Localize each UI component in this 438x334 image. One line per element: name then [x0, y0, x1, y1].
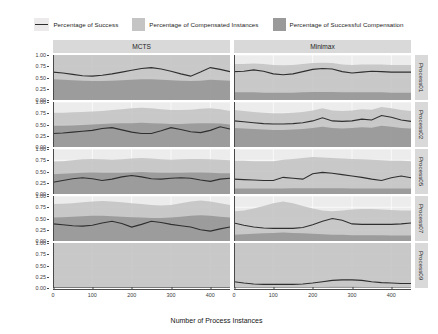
panel-process01-mcts: [53, 55, 230, 100]
y-tick-label: 0.75: [36, 110, 47, 116]
y-axis: 1.000.750.500.250.00: [25, 196, 49, 241]
y-tick-label: 0.25: [36, 274, 47, 280]
column-strip-minimax: Minimax: [234, 40, 411, 53]
y-tick-label: 0.25: [36, 86, 47, 92]
x-tick-label: 100: [269, 289, 278, 298]
x-axis-row: 01002003004000100200300400: [25, 289, 428, 301]
facet-row-process05: 1.000.750.500.250.00Process05: [25, 149, 428, 194]
area-successful-compensation: [234, 188, 411, 194]
y-tick-label: 0.75: [36, 204, 47, 210]
y-tick-label: 0.50: [36, 263, 47, 269]
column-strip-mcts: MCTS: [53, 40, 230, 53]
y-tick-label: 0.75: [36, 157, 47, 163]
panel-process02-mcts: [53, 102, 230, 147]
row-strip-label: Process07: [418, 204, 425, 233]
y-axis: 1.000.750.500.250.00: [25, 55, 49, 100]
y-axis: 1.000.750.500.250.00: [25, 102, 49, 147]
legend-label-successful-compensation: Percentage of Successful Compensation: [290, 21, 404, 28]
x-axis-mcts: 0100200300400: [53, 289, 230, 301]
x-tick-label: 0: [52, 289, 55, 298]
area-successful-compensation: [53, 172, 230, 194]
panel-process09-minimax: [234, 243, 411, 288]
y-axis: 1.000.750.500.250.00: [25, 149, 49, 194]
y-axis: 1.000.750.500.250.00: [25, 243, 49, 288]
y-tick-label: 0.50: [36, 75, 47, 81]
swatch-successful-compensation-icon: [273, 18, 286, 31]
chart-legend: Percentage of Success Percentage of Comp…: [0, 14, 438, 34]
column-strips: MCTSMinimax: [25, 40, 428, 53]
area-compensated: [53, 243, 230, 288]
y-tick-label: 0.50: [36, 122, 47, 128]
x-axis-title: Number of Process Instances: [25, 317, 408, 324]
panel-process01-minimax: [234, 55, 411, 100]
row-strip-process02: Process02: [415, 102, 428, 147]
area-successful-compensation: [234, 92, 411, 100]
legend-item-successful-compensation: Percentage of Successful Compensation: [273, 18, 404, 31]
panel-process09-mcts: [53, 243, 230, 288]
y-tick-label: 1.00: [36, 99, 47, 105]
facet-rows: 1.000.750.500.250.00Process011.000.750.5…: [25, 55, 428, 288]
y-tick-label: 0.00: [36, 285, 47, 291]
row-strip-process09: Process09: [415, 243, 428, 288]
legend-item-success: Percentage of Success: [34, 18, 118, 31]
row-strip-label: Process02: [418, 110, 425, 139]
facet-row-process07: 1.000.750.500.250.00Process07: [25, 196, 428, 241]
x-tick-label: 200: [127, 289, 136, 298]
line-key-icon: [34, 18, 49, 31]
panel-process07-mcts: [53, 196, 230, 241]
x-tick-label: 300: [167, 289, 176, 298]
facet-row-process02: 1.000.750.500.250.00Process02: [25, 102, 428, 147]
panel-process05-mcts: [53, 149, 230, 194]
y-tick-label: 1.00: [36, 146, 47, 152]
y-tick-label: 0.25: [36, 227, 47, 233]
panel-process05-minimax: [234, 149, 411, 194]
area-successful-compensation: [53, 79, 230, 100]
facet-grid: MCTSMinimax 1.000.750.500.250.00Process0…: [25, 40, 428, 301]
y-tick-label: 1.00: [36, 240, 47, 246]
legend-label-compensated: Percentage of Compensated Instances: [149, 21, 258, 28]
legend-label-success: Percentage of Success: [53, 21, 118, 28]
chart-root: Percentage of Success Percentage of Comp…: [0, 0, 438, 334]
x-tick-label: 200: [308, 289, 317, 298]
x-axis-minimax: 0100200300400: [234, 289, 411, 301]
swatch-compensated-icon: [132, 18, 145, 31]
row-strip-process05: Process05: [415, 149, 428, 194]
y-tick-label: 1.00: [36, 52, 47, 58]
y-tick-label: 0.75: [36, 251, 47, 257]
y-tick-label: 0.25: [36, 133, 47, 139]
row-strip-process01: Process01: [415, 55, 428, 100]
row-strip-label: Process01: [418, 63, 425, 92]
x-tick-label: 100: [88, 289, 97, 298]
area-successful-compensation: [53, 123, 230, 147]
x-tick-label: 400: [206, 289, 215, 298]
row-strip-label: Process05: [418, 157, 425, 186]
panel-process02-minimax: [234, 102, 411, 147]
facet-row-process09: 1.000.750.500.250.00Process09: [25, 243, 428, 288]
y-tick-label: 0.50: [36, 216, 47, 222]
y-tick-label: 0.50: [36, 169, 47, 175]
y-tick-label: 0.25: [36, 180, 47, 186]
y-tick-label: 0.75: [36, 63, 47, 69]
x-tick-label: 400: [387, 289, 396, 298]
panel-process07-minimax: [234, 196, 411, 241]
area-successful-compensation: [53, 215, 230, 241]
row-strip-process07: Process07: [415, 196, 428, 241]
legend-item-compensated: Percentage of Compensated Instances: [132, 18, 258, 31]
facet-row-process01: 1.000.750.500.250.00Process01: [25, 55, 428, 100]
x-tick-label: 300: [348, 289, 357, 298]
y-tick-label: 1.00: [36, 193, 47, 199]
x-tick-label: 0: [233, 289, 236, 298]
row-strip-label: Process09: [418, 251, 425, 280]
